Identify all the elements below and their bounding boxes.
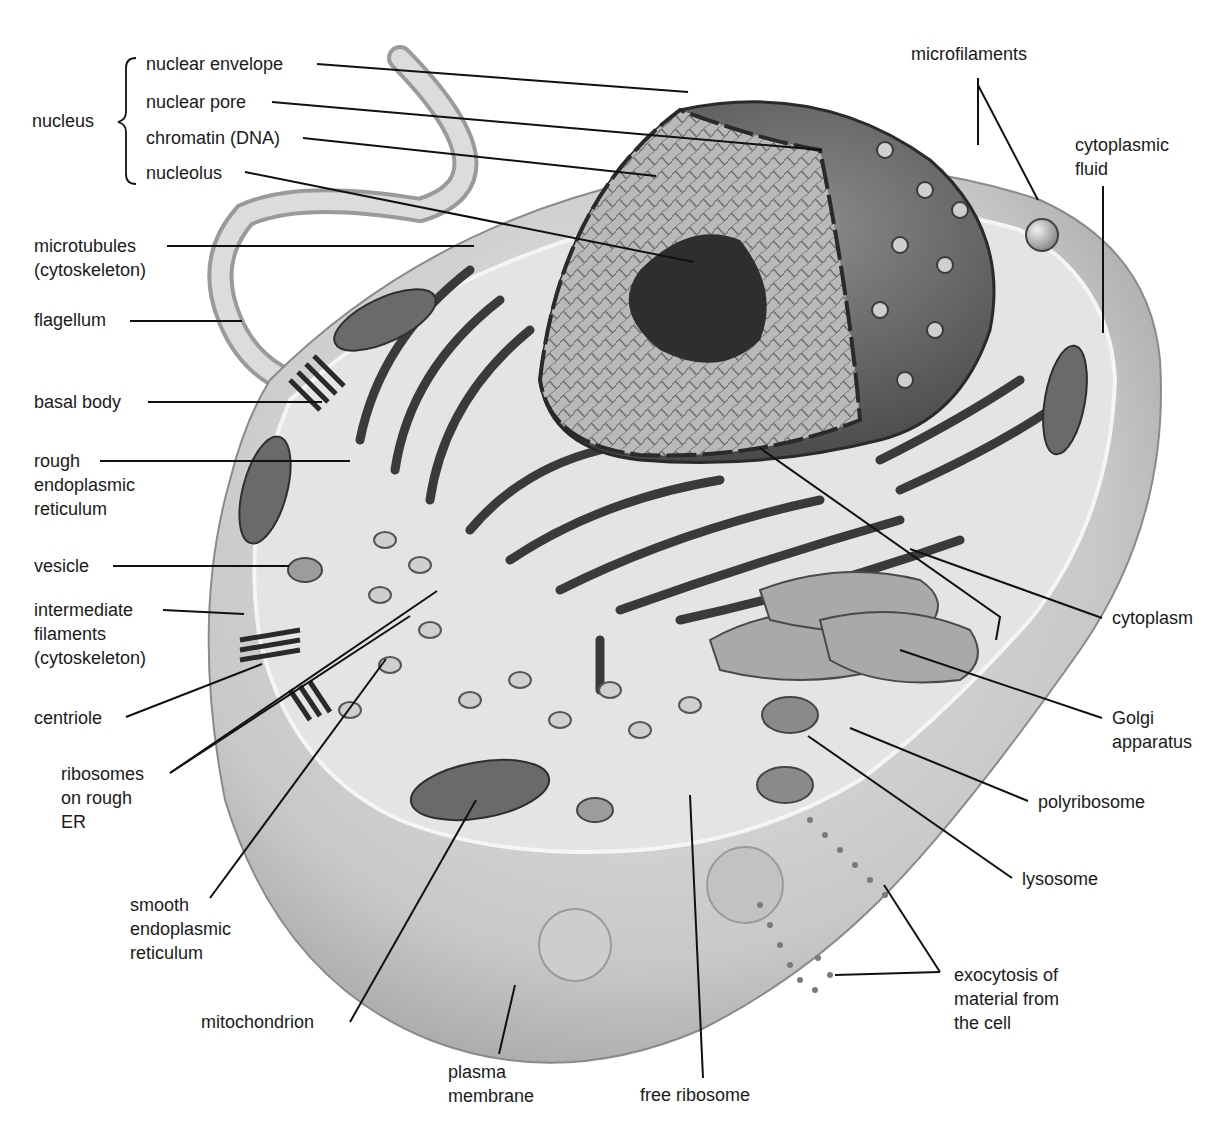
nucleus-shape [540, 102, 994, 463]
label-vesicle: vesicle [34, 554, 89, 578]
label-nuclear-envelope: nuclear envelope [146, 52, 283, 76]
label-golgi-apparatus: Golgi apparatus [1112, 706, 1192, 754]
label-centriole: centriole [34, 706, 102, 730]
label-mitochondrion: mitochondrion [201, 1010, 314, 1034]
label-free-ribosome: free ribosome [640, 1083, 750, 1107]
label-cytoplasmic-fluid: cytoplasmic fluid [1075, 133, 1169, 181]
label-ribosomes-on-rough-er: ribosomes on rough ER [61, 762, 144, 834]
label-plasma-membrane: plasma membrane [448, 1060, 534, 1108]
label-lysosome: lysosome [1022, 867, 1098, 891]
label-nucleus: nucleus [32, 109, 94, 133]
label-exocytosis: exocytosis of material from the cell [954, 963, 1059, 1035]
cell-diagram: nucleus nuclear envelope nuclear pore ch… [0, 0, 1230, 1124]
label-nucleolus: nucleolus [146, 161, 222, 185]
label-basal-body: basal body [34, 390, 121, 414]
label-microtubules: microtubules (cytoskeleton) [34, 234, 146, 282]
label-rough-er: rough endoplasmic reticulum [34, 449, 135, 521]
label-smooth-er: smooth endoplasmic reticulum [130, 893, 231, 965]
label-microfilaments: microfilaments [911, 42, 1027, 66]
label-intermediate-filaments: intermediate filaments (cytoskeleton) [34, 598, 146, 670]
label-cytoplasm: cytoplasm [1112, 606, 1193, 630]
label-flagellum: flagellum [34, 308, 106, 332]
label-chromatin: chromatin (DNA) [146, 126, 280, 150]
label-polyribosome: polyribosome [1038, 790, 1145, 814]
label-nuclear-pore: nuclear pore [146, 90, 246, 114]
